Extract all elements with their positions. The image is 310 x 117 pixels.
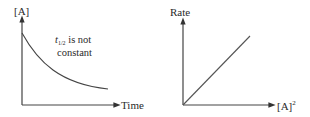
right-diagram: Rate [A]2: [170, 6, 296, 112]
left-diagram: [A] Time t1/2 is not constant: [14, 5, 144, 111]
half-life-annotation-line2: constant: [57, 47, 92, 58]
right-y-axis-label: Rate: [170, 6, 190, 18]
half-life-annotation-line1: t1/2 is not: [55, 34, 91, 46]
left-y-axis-label: [A]: [14, 5, 29, 17]
right-x-axis-label: [A]2: [277, 99, 296, 112]
diagram-canvas: [A] Time t1/2 is not constant Rate [A]2: [0, 0, 310, 117]
linear-rate-line: [183, 36, 250, 105]
left-x-axis-label: Time: [121, 99, 144, 111]
